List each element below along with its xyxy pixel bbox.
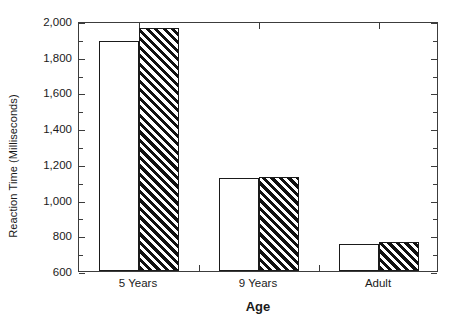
y-axis-minor-tick [79,184,83,185]
y-axis-major-tick [79,59,85,60]
y-axis-major-tick [79,273,85,274]
y-axis-tick-label: 600 [53,266,72,278]
y-axis-minor-tick [433,148,437,149]
bar-chart-figure: Reaction Time (Milliseconds) 6008001,000… [0,0,472,332]
y-axis-minor-tick [433,219,437,220]
plot-area [78,22,438,272]
y-axis-major-tick [79,202,85,203]
y-axis-tick-label: 1,600 [43,87,72,99]
y-axis-minor-tick [79,148,83,149]
y-axis-major-tick [79,94,85,95]
y-axis-major-tick [79,237,85,238]
x-axis-category-tick [259,23,260,29]
y-axis-minor-tick [433,41,437,42]
bar-adult-hatched [379,242,419,271]
y-axis-major-tick [431,273,437,274]
y-axis-minor-tick [433,77,437,78]
bar-9-years-hatched [259,177,299,271]
x-axis-title: Age [78,299,438,314]
y-axis-minor-tick [433,112,437,113]
bar-5-years-hatched [139,28,179,271]
x-axis-tick-label: 9 Years [239,277,277,289]
y-axis-tick-label: 800 [53,230,72,242]
y-axis-major-tick [431,94,437,95]
y-axis-minor-tick [433,184,437,185]
y-axis-major-tick [431,166,437,167]
x-axis-tick-label: Adult [365,277,391,289]
y-axis-minor-tick [79,77,83,78]
y-axis-major-tick [79,130,85,131]
x-axis-tick-label: 5 Years [119,277,157,289]
y-axis-major-tick [79,166,85,167]
x-axis-boundary-tick [199,265,200,271]
y-axis-tick-label: 1,800 [43,52,72,64]
y-axis-tick-label: 1,000 [43,195,72,207]
y-axis-tick-labels: 6008001,0001,2001,4001,6001,8002,000 [28,0,78,332]
y-axis-minor-tick [79,41,83,42]
y-axis-major-tick [431,130,437,131]
y-axis-major-tick [79,23,85,24]
x-axis-category-tick [379,23,380,29]
bar-adult-open [339,244,379,271]
y-axis-minor-tick [79,112,83,113]
x-axis-boundary-tick [319,265,320,271]
x-axis-tick-labels: 5 Years9 YearsAdult [78,277,438,295]
y-axis-major-tick [431,237,437,238]
y-axis-minor-tick [79,255,83,256]
y-axis-major-tick [431,202,437,203]
bar-5-years-open [99,41,139,271]
y-axis-tick-label: 2,000 [43,16,72,28]
bar-9-years-open [219,178,259,271]
y-axis-major-tick [431,59,437,60]
y-axis-minor-tick [433,255,437,256]
y-axis-minor-tick [79,219,83,220]
y-axis-title: Reaction Time (Milliseconds) [0,0,26,332]
y-axis-tick-label: 1,400 [43,123,72,135]
y-axis-major-tick [431,23,437,24]
y-axis-tick-label: 1,200 [43,159,72,171]
